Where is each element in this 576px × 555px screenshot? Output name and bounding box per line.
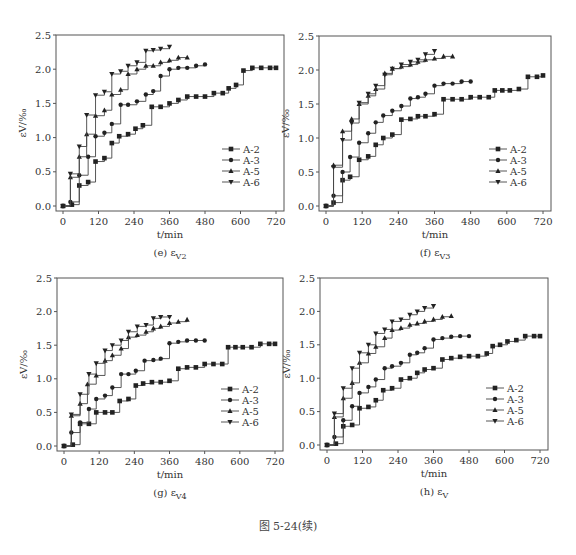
legend: A-2A-3A-5A-6 [486,383,524,427]
data-point-marker [374,377,378,381]
legend-label: A-3 [506,394,524,405]
series-line [327,316,451,445]
figure: 0.00.51.01.52.02.50120240360480600720t/m… [0,0,576,555]
data-point-marker [476,354,481,359]
data-point-marker [415,371,420,376]
data-point-marker [538,334,543,339]
data-point-marker [514,338,519,343]
data-point-marker [490,344,495,349]
data-point-marker [422,346,426,350]
data-point-marker [523,334,528,339]
x-tick-label: 720 [530,455,549,466]
series-a-3 [325,334,471,447]
x-tick-label: 600 [495,455,514,466]
data-point-marker [350,423,355,428]
data-point-marker [390,364,394,368]
y-tick-label: 2.0 [299,306,315,317]
chart-h-eps-v: 0.00.51.01.52.02.50120240360480600720t/m… [0,0,576,555]
x-tick-label: 0 [324,455,330,466]
legend-marker [493,397,497,401]
data-point-marker [390,386,395,391]
data-point-marker [350,404,354,408]
data-point-marker [431,366,436,371]
legend-label: A-2 [506,383,524,394]
data-point-marker [408,376,413,381]
data-point-marker [458,355,463,360]
x-tick-label: 360 [424,455,443,466]
data-point-marker [505,339,510,344]
data-point-marker [399,377,404,382]
data-point-marker [382,366,386,370]
x-tick-label: 120 [353,455,372,466]
data-point-marker [341,418,345,422]
y-tick-label: 0.0 [299,440,315,451]
figure-caption: 图 5-24(续) [0,517,576,533]
legend-label: A-5 [506,405,524,416]
subplot-title: (h) εV [420,486,449,500]
data-point-marker [449,335,453,339]
data-point-marker [366,405,371,410]
y-tick-label: 1.0 [299,373,315,384]
data-point-marker [449,313,454,318]
data-point-marker [532,334,537,339]
data-point-marker [467,334,471,338]
legend-label: A-6 [506,416,524,427]
data-point-marker [422,367,427,372]
y-axis-label: εV/‰ [281,349,292,378]
x-axis-label: t/min [421,468,448,479]
data-point-marker [415,351,419,355]
x-tick-label: 480 [459,455,478,466]
data-point-marker [374,398,379,403]
data-point-marker [431,337,435,341]
y-tick-label: 1.5 [299,339,315,350]
data-point-marker [498,343,503,348]
y-tick-label: 0.5 [299,406,315,417]
series-line [327,336,469,445]
data-point-marker [399,361,403,365]
data-point-marker [467,354,472,359]
data-point-marker [440,336,444,340]
data-point-marker [366,385,370,389]
data-point-marker [440,357,445,362]
data-point-marker [381,388,386,393]
legend-marker [493,386,498,391]
data-point-marker [449,356,454,361]
data-point-marker [357,391,361,395]
x-tick-label: 240 [388,455,407,466]
data-point-marker [458,334,462,338]
data-point-marker [408,353,412,357]
y-tick-label: 2.5 [299,273,315,284]
data-point-marker [484,351,489,356]
